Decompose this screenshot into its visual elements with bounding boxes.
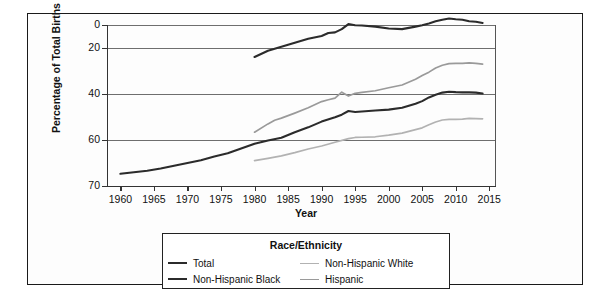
x-tick-label-1990: 1990	[310, 193, 333, 205]
x-tick-label-1985: 1985	[276, 193, 299, 205]
y-tick-label-40: 40	[76, 87, 100, 99]
x-tick-mark-2005	[422, 186, 423, 191]
x-tick-mark-1985	[288, 186, 289, 191]
legend-item-hispanic[interactable]: Hispanic	[300, 271, 450, 287]
y-tick-label-70: 0	[76, 18, 100, 30]
x-tick-label-2005: 2005	[411, 193, 434, 205]
legend-item-non-hispanic-white[interactable]: Non-Hispanic White	[300, 255, 450, 271]
x-tick-label-1965: 1965	[142, 193, 165, 205]
chart-area: Percentage of Total Births 706040200 196…	[28, 14, 584, 204]
x-tick-mark-1990	[322, 186, 323, 191]
legend-item-non-hispanic-black[interactable]: Non-Hispanic Black	[168, 271, 300, 287]
x-tick-mark-2000	[389, 186, 390, 191]
x-tick-label-1975: 1975	[209, 193, 232, 205]
legend-title: Race/Ethnicity	[163, 239, 449, 251]
legend-item-total[interactable]: Total	[168, 255, 300, 271]
series-line-non-hispanic-white	[255, 118, 483, 160]
x-tick-mark-1965	[154, 186, 155, 191]
legend-swatch-icon	[168, 278, 187, 280]
y-axis-title: Percentage of Total Births	[50, 0, 62, 148]
x-tick-label-2010: 2010	[444, 193, 467, 205]
series-lines	[107, 25, 496, 186]
x-tick-mark-1970	[187, 186, 188, 191]
y-tick-label-20: 60	[76, 133, 100, 145]
x-tick-mark-1980	[255, 186, 256, 191]
x-tick-label-1980: 1980	[243, 193, 266, 205]
series-line-total	[120, 92, 482, 174]
x-tick-mark-2010	[456, 186, 457, 191]
legend-swatch-icon	[300, 279, 319, 280]
legend-items: TotalNon-Hispanic WhiteNon-Hispanic Blac…	[163, 255, 449, 287]
x-axis-title: Year	[28, 207, 584, 219]
x-tick-label-1970: 1970	[176, 193, 199, 205]
legend-label: Hispanic	[325, 274, 363, 285]
legend: Race/Ethnicity TotalNon-Hispanic WhiteNo…	[162, 233, 450, 289]
y-tick-label-60: 20	[76, 41, 100, 53]
x-tick-mark-1995	[355, 186, 356, 191]
series-line-hispanic	[255, 63, 483, 132]
y-tick-label-0: 70	[76, 179, 100, 191]
x-tick-label-1960: 1960	[109, 193, 132, 205]
legend-swatch-icon	[300, 263, 319, 264]
series-line-non-hispanic-black	[255, 19, 483, 57]
x-tick-mark-2015	[489, 186, 490, 191]
x-tick-mark-1960	[120, 186, 121, 191]
x-tick-label-1995: 1995	[343, 193, 366, 205]
x-tick-label-2000: 2000	[377, 193, 400, 205]
x-tick-label-2015: 2015	[478, 193, 501, 205]
legend-swatch-icon	[168, 262, 187, 264]
legend-label: Non-Hispanic Black	[193, 274, 280, 285]
figure-frame: Percentage of Total Births 706040200 196…	[27, 13, 583, 285]
legend-label: Total	[193, 258, 214, 269]
legend-label: Non-Hispanic White	[325, 258, 413, 269]
x-tick-mark-1975	[221, 186, 222, 191]
